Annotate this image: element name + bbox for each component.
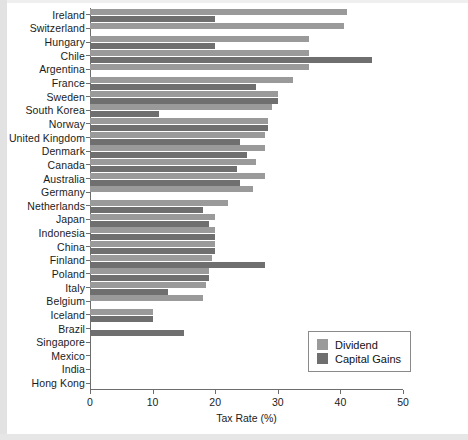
legend-label-capital-gains: Capital Gains xyxy=(335,353,401,365)
bar-row: Switzerland xyxy=(90,22,403,36)
y-axis-category-label: Ireland xyxy=(52,8,85,22)
legend-swatch-capital-gains xyxy=(316,352,329,365)
y-axis-tick xyxy=(86,287,90,288)
y-axis-tick xyxy=(86,355,90,356)
bar-row: United Kingdom xyxy=(90,131,403,145)
y-axis-category-label: Italy xyxy=(65,281,85,295)
bar-row: Netherlands xyxy=(90,199,403,213)
y-axis-tick xyxy=(86,383,90,384)
y-axis-category-label: India xyxy=(62,363,85,377)
bar-dividend xyxy=(90,214,215,220)
bar-row: Italy xyxy=(90,281,403,295)
y-axis-tick xyxy=(86,233,90,234)
bar-dividend xyxy=(90,309,153,315)
y-axis-tick xyxy=(86,178,90,179)
bar-row: Sweden xyxy=(90,90,403,104)
legend-label-dividend: Dividend xyxy=(335,339,378,351)
bar-dividend xyxy=(90,255,212,261)
bar-dividend xyxy=(90,91,278,97)
y-axis-tick xyxy=(86,369,90,370)
bar-row: Hungary xyxy=(90,35,403,49)
bar-dividend xyxy=(90,9,347,15)
y-axis-category-label: Brazil xyxy=(58,322,85,336)
bar-dividend xyxy=(90,268,209,274)
bar-row: Australia xyxy=(90,172,403,186)
y-axis-tick xyxy=(86,42,90,43)
y-axis-category-label: France xyxy=(52,76,85,90)
legend-swatch-dividend xyxy=(316,338,329,351)
y-axis-category-label: Australia xyxy=(43,172,85,186)
y-axis-tick xyxy=(86,110,90,111)
bar-row: Iceland xyxy=(90,308,403,322)
x-axis-title: Tax Rate (%) xyxy=(90,412,403,424)
x-axis-tick-label: 10 xyxy=(147,396,159,408)
x-axis-tick-label: 20 xyxy=(209,396,221,408)
y-axis-tick xyxy=(86,123,90,124)
y-axis-tick xyxy=(86,301,90,302)
x-axis-tick xyxy=(90,390,91,394)
legend-item: Dividend xyxy=(316,338,401,351)
y-axis-tick xyxy=(86,83,90,84)
bar-row: Germany xyxy=(90,185,403,199)
y-axis-tick xyxy=(86,55,90,56)
y-axis-tick xyxy=(86,28,90,29)
y-axis-category-label: Netherlands xyxy=(27,199,85,213)
y-axis-tick xyxy=(86,192,90,193)
bar-dividend xyxy=(90,118,268,124)
y-axis-category-label: Finland xyxy=(50,254,85,268)
page-edge-left xyxy=(0,0,7,440)
y-axis-tick xyxy=(86,151,90,152)
bar-row: Chile xyxy=(90,49,403,63)
bar-row: Japan xyxy=(90,213,403,227)
y-axis-tick xyxy=(86,14,90,15)
bar-dividend xyxy=(90,200,228,206)
bar-dividend xyxy=(90,50,309,56)
y-axis-tick xyxy=(86,260,90,261)
x-axis-tick xyxy=(215,390,216,394)
x-axis-tick-label: 30 xyxy=(272,396,284,408)
y-axis-category-label: Belgium xyxy=(46,294,85,308)
bar-dividend xyxy=(90,173,265,179)
bar-dividend xyxy=(90,295,203,301)
y-axis-category-label: Argentina xyxy=(39,63,85,77)
x-axis-tick xyxy=(278,390,279,394)
y-axis-tick xyxy=(86,69,90,70)
y-axis-category-label: Hungary xyxy=(45,35,85,49)
bar-dividend xyxy=(90,186,253,192)
bar-row: Belgium xyxy=(90,294,403,308)
bar-row: Norway xyxy=(90,117,403,131)
y-axis-tick xyxy=(86,219,90,220)
y-axis-category-label: United Kingdom xyxy=(9,131,85,145)
y-axis-tick xyxy=(86,328,90,329)
y-axis-tick xyxy=(86,246,90,247)
y-axis-category-label: Japan xyxy=(56,213,85,227)
bar-dividend xyxy=(90,64,309,70)
y-axis-category-label: Indonesia xyxy=(39,226,85,240)
y-axis-category-label: Iceland xyxy=(50,308,85,322)
legend-item: Capital Gains xyxy=(316,352,401,365)
x-axis-tick-label: 0 xyxy=(87,396,93,408)
y-axis-category-label: South Korea xyxy=(26,103,85,117)
bar-dividend xyxy=(90,23,344,29)
bar-dividend xyxy=(90,159,256,165)
y-axis-category-label: Mexico xyxy=(51,349,85,363)
bar-row: Canada xyxy=(90,158,403,172)
y-axis-tick xyxy=(86,96,90,97)
bar-row: Indonesia xyxy=(90,226,403,240)
x-axis-tick-label: 50 xyxy=(397,396,409,408)
bar-row: Hong Kong xyxy=(90,376,403,390)
bar-row: France xyxy=(90,76,403,90)
x-axis-tick-label: 40 xyxy=(335,396,347,408)
y-axis-tick xyxy=(86,137,90,138)
x-axis-tick xyxy=(403,390,404,394)
y-axis-category-label: Hong Kong xyxy=(32,376,85,390)
bar-dividend xyxy=(90,104,272,110)
bar-dividend xyxy=(90,145,265,151)
y-axis-tick xyxy=(86,164,90,165)
page-edge-top xyxy=(0,0,468,3)
bar-row: Argentina xyxy=(90,63,403,77)
y-axis-tick xyxy=(86,273,90,274)
bar-dividend xyxy=(90,36,309,42)
y-axis-tick xyxy=(86,342,90,343)
y-axis-tick xyxy=(86,314,90,315)
